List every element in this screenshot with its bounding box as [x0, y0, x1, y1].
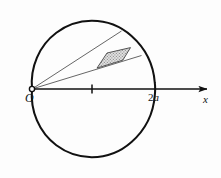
x-axis-label: x [203, 94, 208, 105]
radial-ray-lower [32, 56, 142, 90]
cardioid-diagram [0, 0, 221, 178]
origin-label: O [25, 92, 34, 104]
shaded-area-element [97, 48, 131, 69]
cardioid-figure: O 2a x [0, 0, 221, 178]
x-intercept-symbol: a [154, 91, 160, 103]
x-intercept-label: 2a [148, 92, 159, 103]
